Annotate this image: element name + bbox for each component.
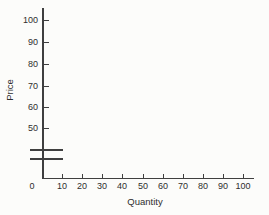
x-tick-label: 0 xyxy=(19,181,45,191)
x-tick-mark xyxy=(183,174,184,178)
x-tick-mark xyxy=(243,174,244,178)
x-tick-mark xyxy=(143,174,144,178)
y-axis-break-mark xyxy=(30,149,63,151)
y-tick-label: 50 xyxy=(6,123,38,133)
x-tick-mark xyxy=(203,174,204,178)
x-tick-mark xyxy=(163,174,164,178)
x-tick-mark xyxy=(122,174,123,178)
y-tick-mark xyxy=(44,86,49,87)
x-axis-line xyxy=(42,178,254,180)
y-axis-break-mark xyxy=(30,158,63,160)
y-tick-mark xyxy=(44,64,49,65)
y-axis-line xyxy=(42,8,44,178)
y-tick-mark xyxy=(44,128,49,129)
y-tick-mark xyxy=(44,107,49,108)
y-tick-label: 100 xyxy=(6,15,38,25)
x-tick-mark xyxy=(223,174,224,178)
y-axis-title: Price xyxy=(4,68,16,112)
x-tick-mark xyxy=(82,174,83,178)
price-quantity-axes-figure: 100 90 80 70 60 50 0 10 20 30 40 50 60 7… xyxy=(0,0,269,215)
x-axis-title: Quantity xyxy=(105,196,185,208)
x-tick-mark xyxy=(102,174,103,178)
y-tick-label: 90 xyxy=(6,37,38,47)
y-tick-mark xyxy=(44,42,49,43)
y-tick-mark xyxy=(44,20,49,21)
x-tick-mark xyxy=(62,174,63,178)
x-tick-label: 100 xyxy=(230,181,256,191)
